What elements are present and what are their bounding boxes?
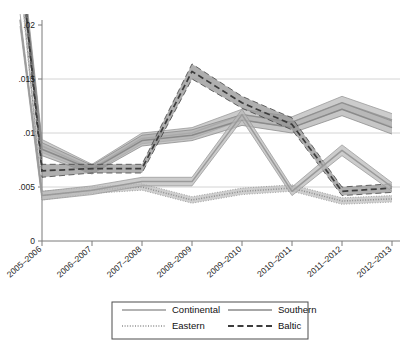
legend-label-eastern: Eastern: [172, 320, 205, 331]
y-tick-label: .015: [18, 74, 35, 84]
legend-label-southern: Southern: [278, 304, 317, 315]
line-chart: 0.005.01.015.02 2005–20062006–20072007–2…: [0, 0, 409, 343]
legend-label-baltic: Baltic: [278, 320, 301, 331]
y-tick-label: .02: [23, 20, 35, 30]
chart-figure: 0.005.01.015.02 2005–20062006–20072007–2…: [0, 0, 409, 343]
y-tick-label: .01: [23, 128, 35, 138]
legend-label-continental: Continental: [172, 304, 220, 315]
chart-legend: ContinentalSouthernEasternBaltic: [112, 302, 317, 339]
y-tick-label: 0: [30, 236, 35, 246]
y-tick-label: .005: [18, 182, 35, 192]
